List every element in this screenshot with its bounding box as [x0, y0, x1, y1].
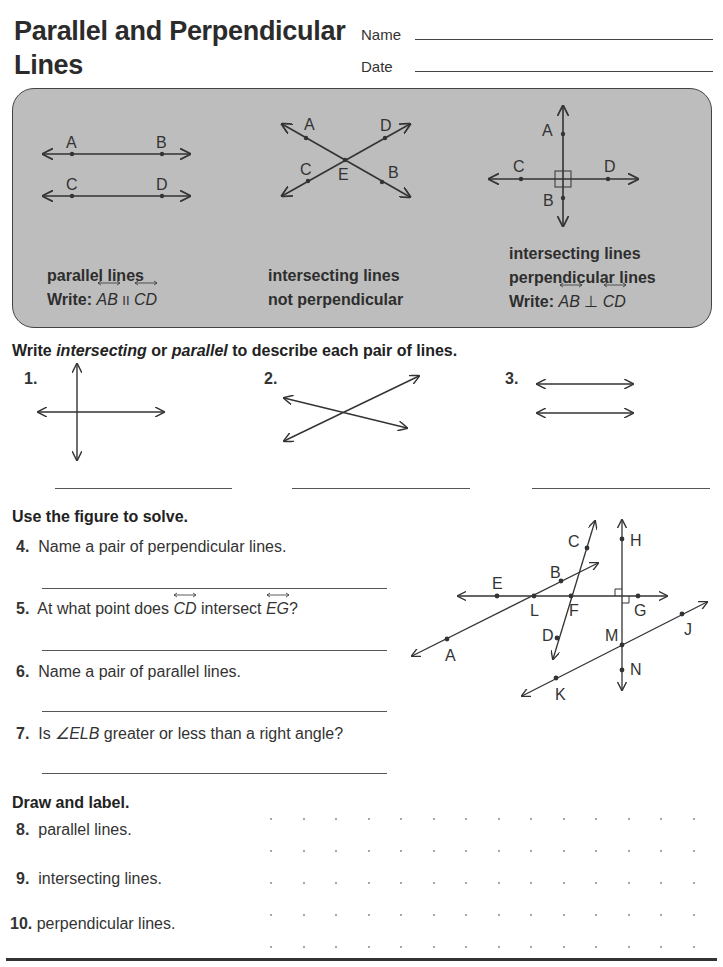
- grid-dot: [628, 882, 630, 884]
- grid-dot: [530, 882, 532, 884]
- grid-dot: [465, 818, 467, 820]
- grid-dot: [563, 882, 565, 884]
- grid-dot: [660, 946, 662, 948]
- grid-dot: [693, 818, 695, 820]
- grid-dot: [368, 818, 370, 820]
- grid-dot: [595, 818, 597, 820]
- grid-dot: [335, 914, 337, 916]
- grid-dot: [368, 850, 370, 852]
- grid-dot: [530, 818, 532, 820]
- grid-dot: [563, 914, 565, 916]
- grid-dot: [660, 914, 662, 916]
- grid-dot: [563, 946, 565, 948]
- grid-dot: [498, 818, 500, 820]
- grid-dot: [595, 914, 597, 916]
- grid-dot: [660, 882, 662, 884]
- grid-dot: [400, 946, 402, 948]
- grid-dot: [498, 914, 500, 916]
- grid-dot: [400, 882, 402, 884]
- grid-dot: [530, 946, 532, 948]
- grid-dot: [563, 818, 565, 820]
- grid-dot: [433, 818, 435, 820]
- grid-dot: [270, 882, 272, 884]
- grid-dot: [628, 946, 630, 948]
- grid-dot: [303, 946, 305, 948]
- grid-dot: [465, 946, 467, 948]
- grid-dot: [628, 818, 630, 820]
- grid-dot: [628, 914, 630, 916]
- grid-dot: [303, 914, 305, 916]
- grid-dot: [400, 850, 402, 852]
- grid-dot: [595, 882, 597, 884]
- grid-dot: [368, 882, 370, 884]
- grid-dot: [400, 818, 402, 820]
- grid-dot: [465, 914, 467, 916]
- grid-dot: [628, 850, 630, 852]
- grid-dot: [433, 946, 435, 948]
- grid-dot: [335, 850, 337, 852]
- grid-dot: [530, 850, 532, 852]
- grid-dot: [303, 850, 305, 852]
- grid-dot: [433, 914, 435, 916]
- grid-dot: [693, 914, 695, 916]
- grid-dot: [270, 946, 272, 948]
- grid-dot: [270, 914, 272, 916]
- grid-dot: [498, 946, 500, 948]
- grid-dot: [270, 818, 272, 820]
- grid-dot: [660, 850, 662, 852]
- grid-dot: [368, 914, 370, 916]
- grid-dot: [693, 946, 695, 948]
- dot-grid[interactable]: [0, 0, 723, 967]
- grid-dot: [530, 914, 532, 916]
- grid-dot: [498, 850, 500, 852]
- grid-dot: [433, 882, 435, 884]
- grid-dot: [563, 850, 565, 852]
- grid-dot: [335, 818, 337, 820]
- grid-dot: [660, 818, 662, 820]
- grid-dot: [465, 882, 467, 884]
- grid-dot: [335, 946, 337, 948]
- grid-dot: [465, 850, 467, 852]
- grid-dot: [400, 914, 402, 916]
- grid-dot: [693, 882, 695, 884]
- grid-dot: [693, 850, 695, 852]
- grid-dot: [595, 850, 597, 852]
- grid-dot: [433, 850, 435, 852]
- grid-dot: [303, 882, 305, 884]
- grid-dot: [303, 818, 305, 820]
- grid-dot: [270, 850, 272, 852]
- grid-dot: [498, 882, 500, 884]
- grid-dot: [595, 946, 597, 948]
- grid-dot: [368, 946, 370, 948]
- footer-rule: [6, 958, 717, 961]
- grid-dot: [335, 882, 337, 884]
